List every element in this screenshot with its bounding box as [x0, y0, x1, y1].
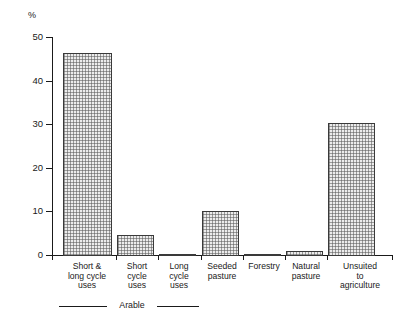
x-tick-mark [116, 255, 117, 260]
y-tick-label: 30 [19, 119, 43, 129]
category-label: Short cycle uses [115, 262, 159, 291]
bar-chart: % 01020304050 Short & long cycle usesSho… [0, 0, 401, 333]
x-tick-mark [285, 255, 286, 260]
bar [117, 235, 154, 256]
category-label: Natural pasture [283, 262, 329, 281]
category-label: Long cycle uses [157, 262, 201, 291]
group-bracket-line-left [59, 306, 109, 307]
x-tick-mark [327, 255, 328, 260]
y-tick-label: 0 [19, 250, 43, 260]
bar [244, 254, 281, 256]
bar [202, 211, 239, 256]
y-tick-label: 20 [19, 163, 43, 173]
y-tick-label: 10 [19, 206, 43, 216]
x-tick-mark [392, 255, 393, 260]
y-tick-label: 50 [19, 32, 43, 42]
bar [328, 123, 375, 256]
bar [286, 251, 323, 256]
category-label: Unsuited to agriculture [327, 262, 393, 291]
x-tick-mark [243, 255, 244, 260]
x-tick-mark [52, 255, 53, 260]
y-axis-unit-label: % [28, 10, 36, 20]
category-label: Short & long cycle uses [55, 262, 119, 291]
bar [159, 254, 196, 256]
group-bracket-label: Arable [107, 300, 157, 311]
category-label: Forestry [241, 262, 287, 272]
category-label: Seeded pasture [199, 262, 245, 281]
x-tick-mark [201, 255, 202, 260]
group-bracket: Arable [59, 300, 199, 312]
bar [63, 53, 112, 256]
x-tick-mark [158, 255, 159, 260]
plot-area [52, 37, 392, 256]
y-tick-label: 40 [19, 76, 43, 86]
